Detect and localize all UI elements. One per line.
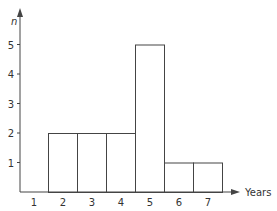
- y-tick-label: 5: [8, 40, 14, 51]
- x-axis-arrow-icon: [231, 189, 240, 195]
- x-tick-label: 1: [31, 197, 37, 208]
- x-tick-label: 4: [118, 197, 124, 208]
- y-tick-label: 2: [8, 128, 14, 139]
- bar-3: [78, 134, 107, 193]
- histogram-chart: 1234567 12345 Years n: [0, 0, 277, 211]
- bar-5: [136, 45, 165, 193]
- y-tick-label: 3: [8, 99, 14, 110]
- x-tick-label: 7: [205, 197, 211, 208]
- y-tick-label: 4: [8, 69, 14, 80]
- y-axis-title: n: [11, 16, 17, 27]
- y-tick-labels: 12345: [8, 40, 20, 169]
- bar-7: [194, 163, 223, 193]
- x-tick-labels: 1234567: [31, 197, 211, 208]
- x-tick-label: 2: [60, 197, 66, 208]
- bars-group: [49, 45, 223, 193]
- bar-2: [49, 134, 78, 193]
- y-tick-label: 1: [8, 158, 14, 169]
- bar-6: [165, 163, 194, 193]
- x-tick-label: 5: [147, 197, 153, 208]
- y-axis-arrow-icon: [17, 8, 23, 17]
- x-tick-label: 6: [176, 197, 182, 208]
- x-axis-title: Years: [244, 187, 271, 198]
- bar-4: [107, 134, 136, 193]
- x-tick-label: 3: [89, 197, 95, 208]
